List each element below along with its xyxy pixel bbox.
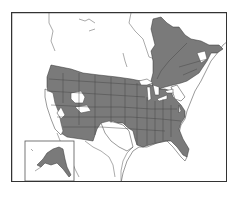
north-america-range-map [12,13,227,182]
lake-michigan [147,87,151,101]
map-frame: North America [11,12,227,182]
